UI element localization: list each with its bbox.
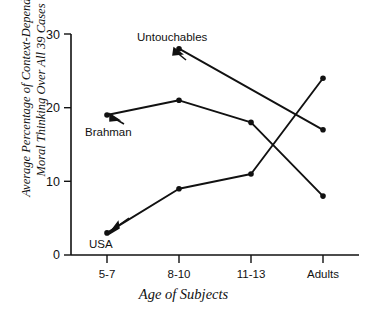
x-axis-ticks (107, 255, 323, 263)
annotation-brahman-label: Brahman (85, 126, 132, 138)
y-tick-label-30: 30 (46, 28, 60, 42)
series-brahman-point-5-7 (104, 112, 110, 118)
annotation-untouchables: Untouchables (137, 31, 208, 60)
series-brahman-point-8-10 (176, 98, 182, 104)
series-brahman-point-adults (320, 193, 326, 199)
series-usa-point-8-10 (176, 186, 182, 192)
annotation-brahman-arrowhead (110, 114, 119, 121)
series-brahman-point-11-13 (248, 120, 254, 126)
y-axis-ticks (64, 34, 71, 255)
x-tick-label-adults: Adults (307, 268, 339, 280)
series-untouchables-point-adults (320, 127, 326, 133)
series-usa-line (107, 78, 323, 233)
series-usa-point-adults (320, 75, 326, 81)
annotation-usa-arrowhead (109, 222, 119, 234)
annotation-usa: USA (89, 218, 129, 250)
series-untouchables (176, 46, 326, 133)
y-tick-label-10: 10 (46, 175, 60, 189)
series-usa (104, 75, 326, 235)
chart-plot-area: 0 10 20 30 5-7 8-10 11-13 Adults (0, 0, 367, 311)
series-usa-point-11-13 (248, 171, 254, 177)
y-tick-label-0: 0 (53, 248, 60, 262)
y-axis-tick-labels: 0 10 20 30 (46, 28, 60, 263)
x-axis-title: Age of Subjects (0, 286, 367, 303)
x-tick-label-11-13: 11-13 (237, 268, 266, 280)
x-tick-label-8-10: 8-10 (167, 268, 190, 280)
x-tick-label-5-7: 5-7 (99, 268, 116, 280)
x-axis-tick-labels: 5-7 8-10 11-13 Adults (99, 268, 340, 280)
annotation-untouchables-label: Untouchables (137, 31, 208, 43)
chart-figure: Average Percentage of Context-Dependent … (0, 0, 367, 311)
series-untouchables-line (179, 49, 323, 130)
y-tick-label-20: 20 (46, 101, 60, 115)
annotation-usa-label: USA (89, 238, 113, 250)
annotation-brahman: Brahman (85, 114, 132, 138)
